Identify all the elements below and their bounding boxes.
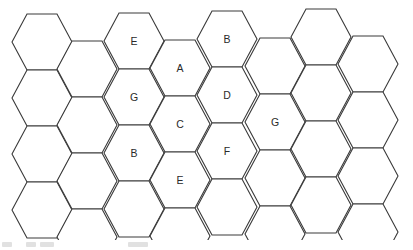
scan-mark — [40, 242, 54, 247]
hex-label: B — [130, 147, 137, 159]
hex-label: C — [176, 118, 184, 130]
hex-label: B — [223, 33, 230, 45]
scan-mark — [128, 242, 148, 247]
hex-label: G — [130, 91, 138, 103]
hex-label: A — [176, 62, 183, 74]
scan-mark — [2, 242, 12, 247]
hex-label: E — [176, 174, 183, 186]
hex-label: G — [271, 116, 279, 128]
hex-label: F — [224, 145, 230, 157]
hex-grid-diagram: EGBACEBDFG — [0, 0, 413, 240]
scan-mark — [26, 242, 36, 247]
hex-label: D — [223, 89, 231, 101]
hex-label: E — [130, 35, 137, 47]
hex-cell: B — [197, 11, 257, 67]
